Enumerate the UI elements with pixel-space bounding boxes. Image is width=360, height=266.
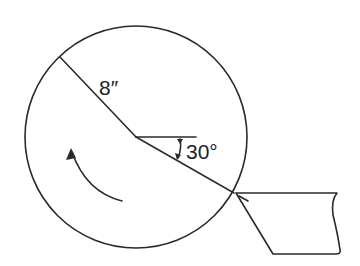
angled-radius-line [136, 137, 234, 193]
diagram-canvas: 8″ 30° [0, 0, 360, 266]
radius-label: 8″ [99, 76, 119, 99]
angle-indicator-icon [175, 139, 183, 160]
rotation-arrow-icon [66, 148, 122, 201]
angle-label: 30° [186, 140, 218, 163]
radius-line [60, 57, 136, 137]
tool-shape [236, 193, 340, 254]
